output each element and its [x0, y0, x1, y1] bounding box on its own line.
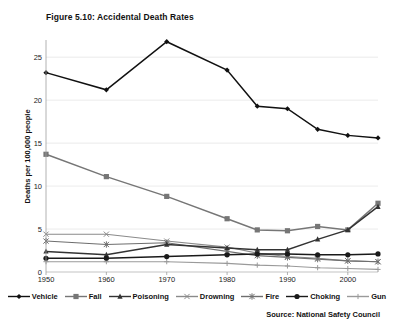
series-fire — [43, 238, 380, 265]
legend-label: Choking — [310, 292, 340, 301]
data-point-marker — [164, 254, 169, 259]
data-series-group — [43, 39, 380, 272]
x-tick-label: 1980 — [219, 275, 236, 284]
x-tick-label: 1950 — [38, 275, 55, 284]
chart-title: Figure 5.10: Accidental Death Rates — [46, 12, 194, 22]
axis-lines — [46, 40, 348, 275]
x-marker-icon — [176, 292, 198, 301]
y-tick-label: 20 — [20, 96, 42, 105]
x-axis-tick-labels: 195019601970198019902000 — [46, 275, 378, 289]
data-point-marker — [375, 251, 380, 256]
legend-item-drowning[interactable]: Drowning — [176, 292, 235, 301]
data-point-marker — [224, 261, 229, 266]
triangle-marker-icon — [109, 292, 131, 301]
series-gun — [43, 259, 380, 272]
star-marker-icon — [241, 292, 263, 301]
y-tick-label: 5 — [20, 225, 42, 234]
y-tick-label: 25 — [20, 53, 42, 62]
legend-label: Poisoning — [133, 292, 169, 301]
legend-label: Fall — [89, 292, 102, 301]
data-point-marker — [375, 135, 380, 140]
legend-item-fall[interactable]: Fall — [65, 292, 102, 301]
y-tick-label: 15 — [20, 139, 42, 148]
chart-legend: VehicleFallPoisoningDrowningFireChokingG… — [0, 292, 394, 301]
series-vehicle — [43, 39, 380, 140]
data-point-marker — [164, 194, 169, 199]
gridlines — [46, 57, 378, 272]
data-point-marker — [16, 294, 21, 299]
data-point-marker — [375, 267, 380, 272]
data-point-marker — [255, 251, 260, 256]
data-point-marker — [295, 294, 300, 299]
series-line — [46, 42, 378, 138]
data-point-marker — [285, 263, 290, 268]
data-point-marker — [285, 251, 290, 256]
legend-label: Fire — [265, 292, 279, 301]
legend-item-gun[interactable]: Gun — [347, 292, 386, 301]
series-line — [46, 154, 378, 230]
data-point-marker — [255, 227, 260, 232]
data-point-marker — [164, 259, 169, 264]
diamond-marker-icon — [8, 292, 30, 301]
data-point-marker — [345, 133, 350, 138]
plot-area — [46, 40, 378, 272]
legend-label: Drowning — [200, 292, 235, 301]
data-point-marker — [356, 294, 361, 299]
data-point-marker — [315, 252, 320, 257]
circle-marker-icon — [286, 292, 308, 301]
plus-marker-icon — [347, 292, 369, 301]
chart-canvas — [46, 40, 378, 272]
y-axis-tick-labels: 0510152025 — [18, 40, 42, 272]
data-point-marker — [104, 174, 109, 179]
data-point-marker — [104, 256, 109, 261]
legend-item-fire[interactable]: Fire — [241, 292, 279, 301]
legend-item-vehicle[interactable]: Vehicle — [8, 292, 58, 301]
x-tick-label: 1970 — [158, 275, 175, 284]
series-fall — [43, 152, 380, 234]
source-note: Source: National Safety Council — [266, 310, 380, 319]
data-point-marker — [315, 265, 320, 270]
data-point-marker — [345, 252, 350, 257]
x-tick-label: 2000 — [339, 275, 356, 284]
legend-label: Vehicle — [32, 292, 58, 301]
legend-item-poisoning[interactable]: Poisoning — [109, 292, 169, 301]
data-point-marker — [224, 216, 229, 221]
data-point-marker — [255, 263, 260, 268]
square-marker-icon — [65, 292, 87, 301]
x-tick-label: 1990 — [279, 275, 296, 284]
data-point-marker — [73, 294, 78, 299]
legend-label: Gun — [371, 292, 386, 301]
series-line — [46, 262, 378, 270]
data-point-marker — [285, 228, 290, 233]
chart-figure: Figure 5.10: Accidental Death Rates Deat… — [0, 0, 394, 330]
legend-item-choking[interactable]: Choking — [286, 292, 340, 301]
x-tick-label: 1960 — [98, 275, 115, 284]
y-tick-label: 10 — [20, 182, 42, 191]
data-point-marker — [224, 252, 229, 257]
data-point-marker — [345, 266, 350, 271]
data-point-marker — [315, 224, 320, 229]
